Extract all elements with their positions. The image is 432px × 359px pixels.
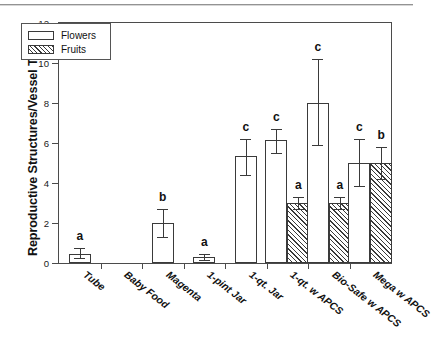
y-axis-tick-10: [52, 63, 59, 64]
bar-fruits-5-error-bar: [298, 197, 299, 209]
bar-flowers-2-error-cap-lower: [157, 237, 168, 238]
bar-flowers-5-error-cap-upper: [271, 129, 282, 130]
y-axis-tick-label-2: 2: [44, 218, 49, 229]
x-axis-tick-7: [350, 263, 351, 269]
legend-swatch-fruits-icon: [28, 45, 54, 54]
bar-fruits-7-error-bar: [381, 147, 382, 179]
y-axis-tick-label-0: 0: [44, 258, 49, 269]
bar-flowers-0-error-bar: [80, 248, 81, 258]
bar-fruits-6-error-bar: [340, 197, 341, 209]
scan-artifact-line-secondary: [0, 5, 413, 6]
bar-flowers-0-error-cap-lower: [74, 258, 85, 259]
sig-letter-flowers-2: b: [159, 190, 166, 204]
y-axis-tick-2: [52, 223, 59, 224]
bar-flowers-3-error-cap-lower: [199, 260, 210, 261]
x-axis-label-2: Magenta: [164, 269, 204, 303]
bar-flowers-7-error-cap-upper: [354, 139, 365, 140]
sig-letter-flowers-3: a: [201, 235, 208, 249]
sig-letter-flowers-5: c: [273, 110, 280, 124]
x-axis-label-0: Tube: [81, 269, 107, 293]
x-axis-label-4: 1-qt. Jar: [247, 269, 285, 302]
bar-fruits-5-error-cap-upper: [293, 197, 304, 198]
y-axis-tick-label-4: 4: [44, 178, 49, 189]
bar-fruits-7-error-cap-lower: [376, 179, 387, 180]
y-axis-tick-label-8: 8: [44, 98, 49, 109]
bar-flowers-6-error-cap-upper: [312, 59, 323, 60]
bar-flowers-2-error-bar: [163, 209, 164, 237]
bar-fruits-6-error-cap-lower: [334, 209, 345, 210]
bar-flowers-5: [265, 140, 287, 263]
sig-letter-fruits-5: a: [295, 178, 302, 192]
y-axis-tick-0: [52, 263, 59, 264]
bar-fruits-5-error-cap-lower: [293, 209, 304, 210]
legend-swatch-flowers-icon: [28, 31, 54, 40]
x-axis-label-6: Bio-Safe w APCS: [330, 269, 403, 329]
bar-flowers-6-error-cap-lower: [312, 145, 323, 146]
bar-flowers-5-error-bar: [276, 129, 277, 153]
bar-flowers-7-error-bar: [359, 139, 360, 186]
x-axis-tick-4: [225, 263, 226, 269]
y-axis-tick-4: [52, 183, 59, 184]
x-axis-tick-3: [184, 263, 185, 269]
x-axis-tick-6: [308, 263, 309, 269]
bar-flowers-0-error-cap-upper: [74, 248, 85, 249]
bar-flowers-6-error-bar: [318, 59, 319, 145]
x-axis-tick-1: [101, 263, 102, 269]
y-axis-tick-8: [52, 103, 59, 104]
sig-letter-fruits-7: b: [378, 128, 385, 142]
y-axis-tick-6: [52, 143, 59, 144]
legend-label-flowers: Flowers: [61, 30, 96, 41]
x-axis-tick-5: [267, 263, 268, 269]
bar-flowers-7-error-cap-lower: [354, 186, 365, 187]
chart-legend: Flowers Fruits: [21, 23, 111, 60]
sig-letter-fruits-6: a: [336, 178, 343, 192]
sig-letter-flowers-7: c: [356, 120, 363, 134]
legend-item-fruits: Fruits: [28, 44, 86, 55]
sig-letter-flowers-4: c: [242, 120, 249, 134]
bar-flowers-4-error-cap-lower: [240, 175, 251, 176]
bar-fruits-6-error-cap-upper: [334, 197, 345, 198]
x-axis-label-1: Baby Food: [122, 269, 171, 310]
x-axis-tick-2: [142, 263, 143, 269]
sig-letter-flowers-0: a: [76, 229, 83, 243]
sig-letter-flowers-6: c: [314, 40, 321, 54]
bar-flowers-4-error-cap-upper: [240, 139, 251, 140]
bar-flowers-2-error-cap-upper: [157, 209, 168, 210]
x-axis-label-3: 1-pint Jar: [205, 269, 248, 306]
y-axis-tick-label-6: 6: [44, 138, 49, 149]
legend-label-fruits: Fruits: [61, 44, 86, 55]
bar-flowers-3-error-cap-upper: [199, 254, 210, 255]
bar-flowers-5-error-cap-lower: [271, 153, 282, 154]
legend-item-flowers: Flowers: [28, 30, 96, 41]
bar-flowers-4-error-bar: [246, 139, 247, 175]
bar-fruits-7-error-cap-upper: [376, 147, 387, 148]
